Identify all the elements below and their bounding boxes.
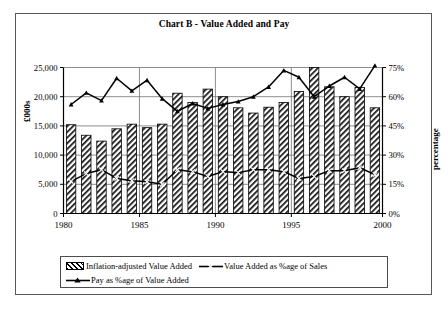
legend-item-pay-pct-of-value-added: Pay as %age of Value Added xyxy=(66,275,189,285)
y-right-tick-label: 75% xyxy=(389,63,405,73)
legend-item-label: Pay as %age of Value Added xyxy=(91,275,189,285)
bar-1998 xyxy=(340,97,349,214)
y-axis-left-title: £000s xyxy=(22,100,32,122)
bar-1993 xyxy=(264,107,273,213)
y-left-tick-label: 15,000 xyxy=(34,121,58,131)
legend: Inflation-adjusted Value Added Value Add… xyxy=(60,256,388,288)
bar-hatch-swatch-icon xyxy=(66,262,84,270)
y-right-tick-label: 30% xyxy=(389,150,405,160)
bar-1988 xyxy=(188,103,197,214)
legend-item-label: Value Added as %age of Sales xyxy=(224,261,327,271)
bar-1984 xyxy=(127,124,136,213)
y-left-tick-label: 0 xyxy=(53,209,57,219)
y-axis-right-title: percentage xyxy=(430,128,440,170)
line-triangle-marker-swatch-icon xyxy=(66,276,90,285)
x-tick-label: 1995 xyxy=(282,220,301,230)
bar-2000 xyxy=(370,108,379,214)
bar-1994 xyxy=(279,103,288,214)
bar-1980 xyxy=(66,125,75,214)
y-right-tick-label: 0% xyxy=(389,209,400,219)
legend-row-1: Inflation-adjusted Value Added Value Add… xyxy=(66,259,383,273)
y-right-tick-label: 60% xyxy=(389,92,405,102)
bar-1990 xyxy=(218,97,227,214)
legend-item-label: Inflation-adjusted Value Added xyxy=(86,261,192,271)
x-tick-label: 1990 xyxy=(206,220,225,230)
y-left-tick-label: 5,000 xyxy=(38,179,57,189)
bar-1991 xyxy=(233,108,242,214)
bar-1997 xyxy=(325,87,334,214)
bar-1996 xyxy=(309,68,318,214)
bar-1995 xyxy=(294,91,303,213)
legend-item-inflation-adjusted-value-added: Inflation-adjusted Value Added xyxy=(66,261,192,271)
y-left-tick-label: 10,000 xyxy=(34,150,58,160)
legend-item-value-added-pct-of-sales: Value Added as %age of Sales xyxy=(199,261,327,271)
y-left-tick-label: 25,000 xyxy=(34,63,58,73)
bar-1999 xyxy=(355,87,364,213)
legend-row-2: Pay as %age of Value Added xyxy=(66,273,383,287)
x-tick-label: 1980 xyxy=(55,220,74,230)
bar-series xyxy=(66,68,379,214)
y-right-tick-label: 15% xyxy=(389,179,405,189)
y-right-tick-label: 45% xyxy=(389,121,405,131)
bar-1986 xyxy=(158,124,167,213)
bar-1982 xyxy=(97,141,106,213)
bar-1992 xyxy=(249,113,258,213)
chart-page: Chart B - Value Added and Pay 05,00010,0… xyxy=(0,0,448,313)
bar-1983 xyxy=(112,129,121,214)
x-tick-label: 2000 xyxy=(374,220,393,230)
x-tick-label: 1985 xyxy=(130,220,149,230)
line-x-marker-swatch-icon xyxy=(199,262,223,271)
bar-1985 xyxy=(142,128,151,214)
y-left-tick-label: 20,000 xyxy=(34,92,58,102)
